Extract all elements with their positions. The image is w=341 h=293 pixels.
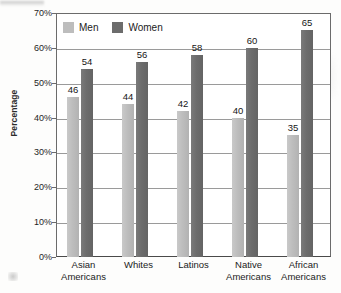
y-axis-tick-label: 70% [12, 8, 52, 18]
legend-swatch-women [112, 22, 123, 33]
x-axis-category-label: AsianAmericans [56, 259, 111, 282]
scan-artifact-bottom-left [8, 272, 18, 281]
y-axis-tick-label: 0% [12, 252, 52, 262]
bar-chart: Percentage 0%10%20%30%40%50%60%70% Men W… [0, 0, 341, 293]
y-axis-tick-label: 10% [12, 217, 52, 227]
legend-label-men: Men [79, 22, 98, 33]
gridline [57, 188, 330, 189]
plot-area [56, 13, 331, 257]
gridline [57, 84, 330, 85]
gridline [57, 153, 330, 154]
legend-swatch-men [63, 22, 74, 33]
gridline [57, 223, 330, 224]
x-axis-category-label: Latinos [166, 259, 221, 271]
y-axis-tick-label: 60% [12, 43, 52, 53]
x-axis-category-labels: AsianAmericansWhitesLatinosNativeAmerica… [56, 259, 331, 293]
x-axis-category-label: NativeAmericans [221, 259, 276, 282]
y-axis-tick-label: 40% [12, 113, 52, 123]
legend-item-women: Women [112, 22, 162, 33]
scan-artifact-top [0, 1, 44, 6]
x-axis-category-label: AfricanAmericans [276, 259, 331, 282]
x-axis-category-label: Whites [111, 259, 166, 271]
legend-item-men: Men [63, 22, 98, 33]
gridline [57, 119, 330, 120]
y-axis-tick-label: 20% [12, 182, 52, 192]
y-axis-tick-mark [52, 257, 56, 258]
y-axis-tick-label: 50% [12, 78, 52, 88]
chart-legend: Men Women [63, 22, 163, 33]
gridline [57, 49, 330, 50]
legend-label-women: Women [128, 22, 162, 33]
y-axis-tick-label: 30% [12, 147, 52, 157]
